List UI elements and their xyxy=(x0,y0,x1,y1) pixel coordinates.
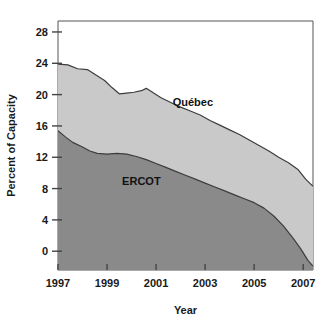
x-tick-label-1997: 1997 xyxy=(46,277,70,289)
series-label-qubec: Québec xyxy=(173,96,213,108)
x-tick-label-1999: 1999 xyxy=(95,277,119,289)
y-tick-label-28: 28 xyxy=(36,26,48,38)
x-tick-label-2005: 2005 xyxy=(242,277,266,289)
y-tick-label-20: 20 xyxy=(36,89,48,101)
y-tick-label-4: 4 xyxy=(42,214,49,226)
y-axis-title: Percent of Capacity xyxy=(5,93,17,197)
series-label-ercot: ERCOT xyxy=(122,175,161,187)
y-tick-label-8: 8 xyxy=(42,183,48,195)
x-tick-label-2007: 2007 xyxy=(291,277,315,289)
area-chart: 0481216202428199719992001200320052007Yea… xyxy=(0,0,335,324)
x-tick-label-2003: 2003 xyxy=(193,277,217,289)
x-axis-title: Year xyxy=(174,304,198,316)
y-tick-label-0: 0 xyxy=(42,245,48,257)
x-tick-label-2001: 2001 xyxy=(144,277,168,289)
y-tick-label-12: 12 xyxy=(36,151,48,163)
chart-container: 0481216202428199719992001200320052007Yea… xyxy=(0,0,335,324)
y-tick-label-24: 24 xyxy=(36,57,49,69)
y-tick-label-16: 16 xyxy=(36,120,48,132)
